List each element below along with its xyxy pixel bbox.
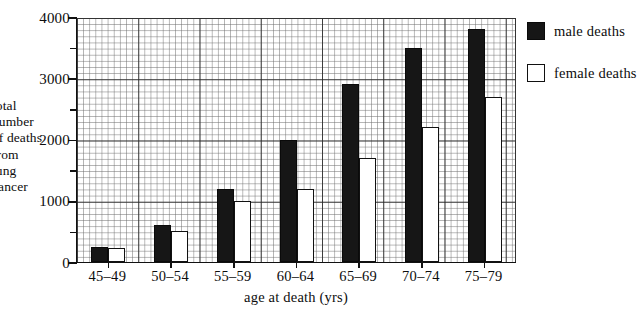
y-axis-tick-label: 0 xyxy=(26,256,70,271)
legend-swatch-female-icon xyxy=(527,64,545,82)
x-axis-tick-label: 55–59 xyxy=(198,268,268,285)
bar-group xyxy=(468,18,502,262)
legend-swatch-male-icon xyxy=(527,22,545,40)
bar-group xyxy=(342,18,376,262)
bar-female xyxy=(171,231,188,262)
bar-male xyxy=(217,189,234,263)
x-axis-tick-label: 75–79 xyxy=(449,268,519,285)
y-axis-minor-tick-mark xyxy=(70,232,77,234)
bar-group xyxy=(91,18,125,262)
x-axis-tick-labels: 45–4950–5455–5960–6465–6970–7475–79 xyxy=(76,268,516,288)
bar-group xyxy=(217,18,251,262)
plot-area xyxy=(76,18,516,263)
bar-female xyxy=(359,158,376,262)
bar-female xyxy=(485,97,502,262)
legend-label-male: male deaths xyxy=(554,23,625,40)
y-axis-tick-label: 1000 xyxy=(26,194,70,209)
bar-male xyxy=(280,140,297,263)
y-axis-tick-mark xyxy=(68,140,77,142)
bar-male xyxy=(91,247,108,262)
y-axis-tick-label: 3000 xyxy=(26,72,70,87)
x-axis-title: age at death (yrs) xyxy=(76,289,516,306)
y-axis-tick-mark xyxy=(68,201,77,203)
x-axis-tick-label: 65–69 xyxy=(323,268,393,285)
bar-female xyxy=(108,248,125,262)
bar-male xyxy=(342,84,359,262)
y-axis-minor-tick-mark xyxy=(70,109,77,111)
bar-group xyxy=(405,18,439,262)
y-axis-tick-label: 2000 xyxy=(26,133,70,148)
y-axis-tick-labels: 01000200030004000 xyxy=(14,0,70,322)
legend: male deaths female deaths xyxy=(527,22,627,106)
bar-male xyxy=(468,29,485,262)
bar-male xyxy=(405,48,422,262)
y-axis-minor-tick-mark xyxy=(70,170,77,172)
x-axis-tick-label: 50–54 xyxy=(135,268,205,285)
x-axis-tick-label: 45–49 xyxy=(72,268,142,285)
bar-group xyxy=(154,18,188,262)
legend-item-male: male deaths xyxy=(527,22,627,40)
y-axis-minor-tick-mark xyxy=(70,48,77,50)
x-axis-tick-label: 60–64 xyxy=(261,268,331,285)
bar-female xyxy=(422,127,439,262)
bar-female xyxy=(297,189,314,263)
legend-label-female: female deaths xyxy=(554,65,637,82)
bar-female xyxy=(234,201,251,262)
y-axis-tick-mark xyxy=(68,262,77,264)
legend-item-female: female deaths xyxy=(527,64,627,82)
bar-male xyxy=(154,225,171,262)
x-axis-tick-label: 70–74 xyxy=(386,268,456,285)
y-axis-tick-mark xyxy=(68,78,77,80)
y-axis-tick-mark xyxy=(68,17,77,19)
y-axis-tick-label: 4000 xyxy=(26,11,70,26)
bar-group xyxy=(280,18,314,262)
